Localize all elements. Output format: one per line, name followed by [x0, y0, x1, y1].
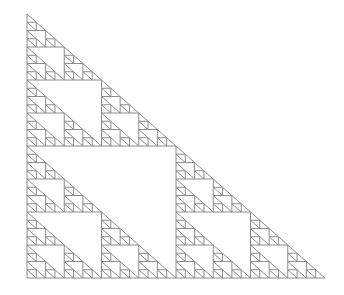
- sierpinski-triangle-fractal: [0, 0, 344, 295]
- fractal-figure-container: Sierpinski Triangle Fractal Recursive Si…: [0, 0, 344, 295]
